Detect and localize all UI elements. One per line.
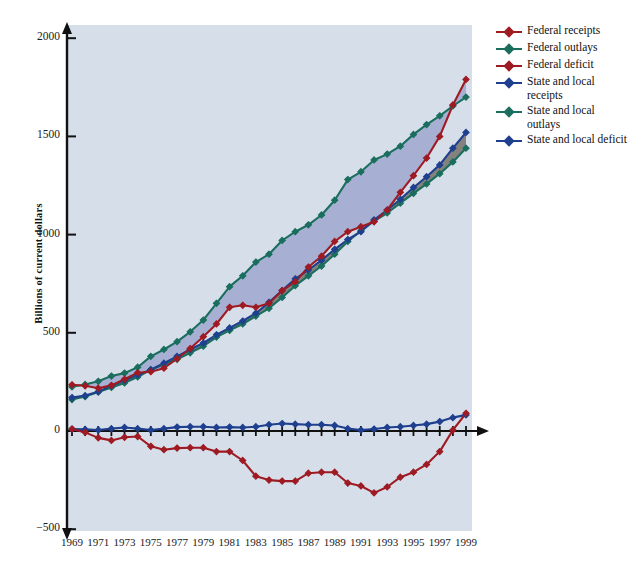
y-tick-label: 0 — [14, 423, 60, 435]
legend-item-label: State and local receipts — [527, 75, 628, 102]
legend-marker-icon — [496, 59, 522, 73]
legend-item: State and local outlays — [496, 104, 628, 131]
legend-item-label: State and local deficit — [527, 133, 627, 147]
x-tick-label: 1999 — [446, 536, 486, 548]
legend-marker-icon — [496, 76, 522, 90]
legend-marker-icon — [496, 134, 522, 148]
legend-item: Federal outlays — [496, 41, 628, 56]
y-tick-label: 1000 — [14, 227, 60, 239]
legend-marker-icon — [496, 25, 522, 39]
y-tick-label: −500 — [14, 521, 60, 533]
legend-marker-icon — [496, 42, 522, 56]
legend-item-label: Federal outlays — [527, 41, 598, 55]
legend-marker-icon — [496, 105, 522, 119]
legend-item-label: Federal receipts — [527, 24, 600, 38]
y-tick-label: 500 — [14, 325, 60, 337]
chart-figure: Billions of current dollars 200015001000… — [0, 0, 628, 562]
legend-item: Federal receipts — [496, 24, 628, 39]
y-tick-label: 2000 — [14, 30, 60, 42]
y-tick-label: 1500 — [14, 128, 60, 140]
chart-legend: Federal receiptsFederal outlaysFederal d… — [496, 24, 628, 150]
area-fills — [72, 79, 466, 399]
legend-item: State and local receipts — [496, 75, 628, 102]
legend-item: Federal deficit — [496, 58, 628, 73]
legend-item: State and local deficit — [496, 133, 628, 148]
legend-item-label: Federal deficit — [527, 58, 594, 72]
legend-item-label: State and local outlays — [527, 104, 628, 131]
